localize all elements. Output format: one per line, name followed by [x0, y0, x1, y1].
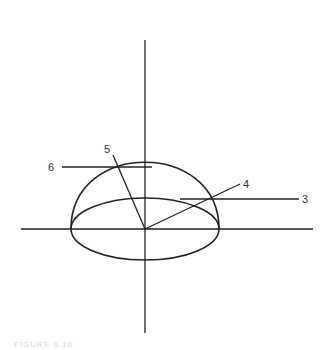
leader-4: [145, 184, 240, 229]
label-4: 4: [243, 178, 249, 190]
leader-5: [113, 155, 145, 229]
figure-caption: FIGURE 8.10: [14, 340, 73, 349]
hemisphere-diagram: 6 5 4 3: [0, 0, 336, 350]
label-6: 6: [48, 161, 54, 173]
label-5: 5: [104, 143, 110, 155]
label-3: 3: [302, 193, 308, 205]
